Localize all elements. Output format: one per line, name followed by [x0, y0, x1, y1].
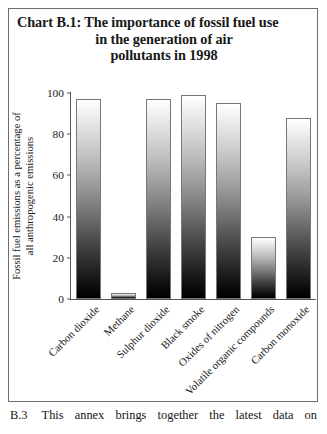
y-tick-label: 60	[53, 169, 71, 181]
y-tick-label: 0	[58, 293, 71, 305]
chart-title: Chart B.1: The importance of fossil fuel…	[15, 14, 313, 64]
x-label-methane: Methane	[101, 303, 136, 338]
y-tick-label: 20	[53, 252, 71, 264]
bar-carbon-monoxide	[286, 118, 312, 299]
bar-black-smoke	[181, 95, 207, 299]
x-axis-line	[70, 299, 316, 300]
footer-paragraph-number: B.3	[10, 408, 42, 423]
y-tick-label: 40	[53, 211, 71, 223]
bar-slot	[176, 93, 211, 299]
bar-volatile-organic-compounds	[251, 237, 277, 299]
bar-carbon-dioxide	[76, 99, 102, 299]
bar-slot	[71, 93, 106, 299]
bar-methane	[111, 293, 137, 299]
chart-figure-frame: Chart B.1: The importance of fossil fuel…	[8, 8, 318, 402]
chart-title-line-2: in the generation of air	[15, 31, 313, 48]
chart-title-line-1: Chart B.1: The importance of fossil fuel…	[15, 14, 313, 31]
y-axis-title: Fossil fuel emissions as a percentage of…	[8, 93, 43, 299]
bar-sulphur-dioxide	[146, 99, 172, 299]
y-tick-label: 80	[53, 128, 71, 140]
y-tick-label: 100	[47, 87, 71, 99]
bar-oxides-of-nitrogen	[216, 103, 242, 299]
footer-paragraph-text: This annex brings together the latest da…	[42, 408, 317, 423]
chart-title-line-3: pollutants in 1998	[15, 47, 313, 64]
y-axis-title-line-1: Fossil fuel emissions as a percentage of	[10, 112, 24, 280]
plot-area: 020406080100	[71, 93, 316, 299]
x-label-carbon-dioxide: Carbon dioxide	[45, 303, 101, 359]
footer-note: B.3 This annex brings together the lates…	[10, 408, 317, 423]
bar-slot	[281, 93, 316, 299]
x-axis-labels: Carbon dioxideMethaneSulphur dioxideBlac…	[71, 301, 316, 402]
x-label-oxides-of-nitrogen: Oxides of nitrogen	[175, 303, 241, 369]
bar-slot	[141, 93, 176, 299]
bar-slot	[106, 93, 141, 299]
bar-slot	[246, 93, 281, 299]
bar-slot	[211, 93, 246, 299]
y-axis-title-line-2: all anthropogenic emissions	[23, 112, 37, 280]
